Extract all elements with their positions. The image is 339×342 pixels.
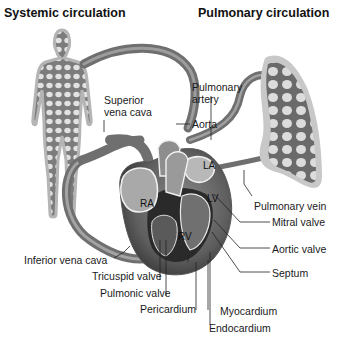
label-aorta: Aorta — [192, 118, 217, 130]
label-mitral-valve: Mitral valve — [272, 216, 325, 228]
label-endocardium: Endocardium — [209, 322, 271, 334]
systemic-circulation-title: Systemic circulation — [4, 6, 126, 20]
chamber-la: LA — [203, 160, 215, 171]
label-inferior-vena-cava: Inferior vena cava — [24, 254, 107, 266]
label-myocardium: Myocardium — [220, 305, 277, 317]
chamber-rv: RV — [178, 231, 192, 242]
label-aortic-valve: Aortic valve — [272, 243, 326, 255]
label-tricuspid-valve: Tricuspid valve — [92, 270, 162, 282]
lung — [260, 56, 322, 188]
label-superior-vena-cava-2: vena cava — [104, 106, 152, 118]
pulmonary-circulation-title: Pulmonary circulation — [198, 6, 329, 20]
label-pulmonary-artery-1: Pulmonary — [192, 81, 242, 93]
label-septum: Septum — [272, 267, 308, 279]
chamber-ra: RA — [140, 198, 154, 209]
label-pulmonary-artery-2: artery — [192, 93, 219, 105]
label-pulmonary-vein: Pulmonary vein — [254, 200, 326, 212]
chamber-lv: LV — [207, 193, 219, 204]
label-pericardium: Pericardium — [140, 303, 196, 315]
label-pulmonic-valve: Pulmonic valve — [100, 287, 171, 299]
label-superior-vena-cava-1: Superior — [104, 94, 144, 106]
